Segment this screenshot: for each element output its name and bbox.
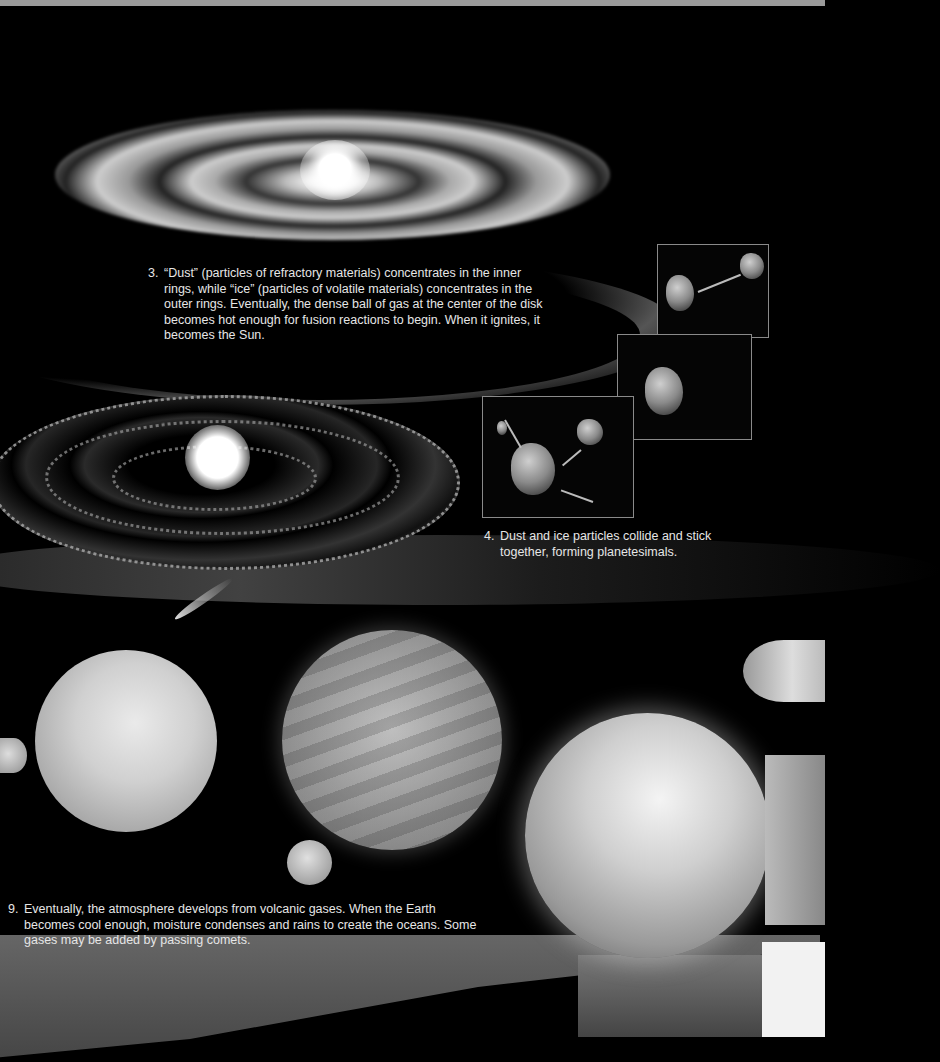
caption-step-3: 3. “Dust” (particles of refractory mater… — [148, 266, 548, 344]
arrow-icon — [562, 449, 582, 466]
planetesimal-rock — [666, 275, 694, 311]
caption-step-9: 9. Eventually, the atmosphere develops f… — [8, 902, 478, 949]
arrow-icon — [698, 274, 741, 293]
background-grey-block — [578, 955, 763, 1037]
page-top-edge — [0, 0, 825, 6]
background-right-strip — [765, 755, 825, 925]
caption-step-4: 4. Dust and ice particles collide and st… — [484, 529, 744, 560]
central-gas-ball — [300, 140, 370, 200]
planetesimal-rock — [645, 367, 683, 415]
caption-step-3-number: 3. — [148, 266, 158, 282]
cratered-protoplanet — [35, 650, 217, 832]
arrow-icon — [504, 420, 522, 449]
inset-collision-2 — [617, 334, 752, 440]
caption-step-9-text: Eventually, the atmosphere develops from… — [24, 902, 478, 949]
earth-illustration — [525, 713, 770, 958]
planetesimal-rock — [577, 419, 603, 445]
blank-corner-block — [762, 942, 825, 1037]
planetesimal-rock — [511, 443, 555, 495]
caption-step-4-text: Dust and ice particles collide and stick… — [500, 529, 744, 560]
arrow-icon — [561, 489, 594, 503]
caption-step-3-text: “Dust” (particles of refractory material… — [164, 266, 548, 344]
ignited-sun — [185, 425, 250, 490]
small-moon-center — [287, 840, 332, 885]
inset-collision-1 — [657, 244, 769, 338]
inset-collision-3 — [482, 396, 634, 518]
planetesimal-rock — [740, 253, 764, 279]
distant-planet-right — [743, 640, 825, 702]
caption-step-9-number: 9. — [8, 902, 18, 918]
cloud-covered-protoplanet — [282, 630, 502, 850]
small-moon-left — [0, 738, 27, 773]
caption-step-4-number: 4. — [484, 529, 494, 545]
